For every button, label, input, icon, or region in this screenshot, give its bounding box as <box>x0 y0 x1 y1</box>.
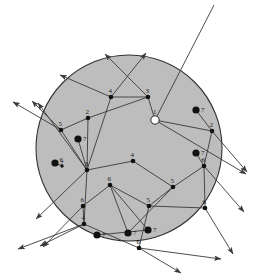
isolated-point <box>124 229 131 236</box>
vertex-label: 7 <box>83 135 87 143</box>
graph-vertex <box>147 204 152 209</box>
shaded-disk <box>36 55 222 241</box>
vertex-label: 4 <box>109 87 113 95</box>
vertex-label: 5 <box>59 120 63 128</box>
graph-vertex <box>85 168 90 173</box>
isolated-point <box>93 231 100 238</box>
vertex-label: 7 <box>153 226 157 234</box>
graph-vertex <box>202 164 207 169</box>
isolated-point <box>192 106 199 113</box>
vertex-label: 7 <box>201 149 205 157</box>
vertex-label: 7 <box>102 231 106 239</box>
graph-vertex <box>81 204 86 209</box>
vertex-label: 6 <box>108 175 112 183</box>
vertex-label: 3 <box>85 160 89 168</box>
vertex-label: 6 <box>203 198 207 206</box>
vertex-label: 1 <box>153 108 157 116</box>
graph-vertex <box>137 246 142 251</box>
graph-vertex <box>146 95 151 100</box>
vertex-label: 6 <box>137 238 141 246</box>
vertex-label: 6 <box>81 196 85 204</box>
vertex-label: 7 <box>60 159 64 167</box>
graph-vertex <box>108 183 113 188</box>
graph-vertex <box>59 128 64 133</box>
vertex-label: 5 <box>147 196 151 204</box>
isolated-point <box>74 135 81 142</box>
vertex-label: 2 <box>210 121 214 129</box>
vertex-label: 3 <box>146 87 150 95</box>
graph-vertex <box>86 116 91 121</box>
figure-container: 122334445556666667777777 <box>0 0 258 280</box>
vertex-label: 7 <box>133 229 137 237</box>
graph-vertex <box>131 159 136 164</box>
isolated-point <box>192 149 199 156</box>
vertex-label: 5 <box>171 177 175 185</box>
isolated-point <box>144 226 151 233</box>
graph-vertex <box>109 95 114 100</box>
graph-vertex <box>171 185 176 190</box>
vertex-label: 2 <box>86 108 90 116</box>
graph-diagram: 122334445556666667777777 <box>0 0 258 280</box>
vertex-label: 4 <box>131 151 135 159</box>
graph-vertex <box>151 116 159 124</box>
graph-vertex <box>203 206 208 211</box>
vertex-label: 7 <box>201 106 205 114</box>
graph-vertex <box>210 129 215 134</box>
graph-vertex <box>82 222 87 227</box>
isolated-point <box>51 159 58 166</box>
vertex-label: 4 <box>82 214 86 222</box>
